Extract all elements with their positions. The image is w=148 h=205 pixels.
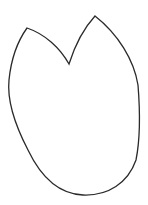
lily-pad-shape: [9, 16, 140, 195]
lily-pad-outline-drawing: [0, 0, 148, 205]
